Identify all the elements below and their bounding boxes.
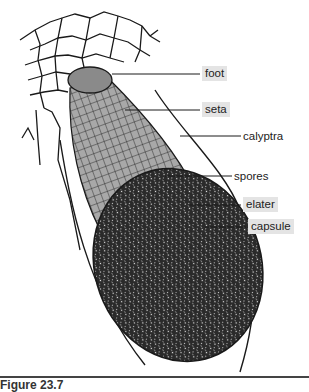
label-capsule: capsule [248,219,294,234]
label-calyptra: calyptra [243,129,283,144]
label-spores: spores [234,169,269,184]
label-foot: foot [202,66,227,81]
foot [68,67,112,93]
figure-caption: Figure 23.7 [0,378,63,392]
label-seta: seta [202,102,230,117]
label-elater: elater [243,197,278,212]
